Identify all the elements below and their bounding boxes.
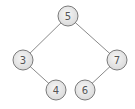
node-label: 6 [82,85,88,96]
nodes: 53746 [13,6,127,100]
tree-node-3: 3 [13,50,33,70]
node-label: 4 [53,85,59,96]
node-label: 7 [114,55,120,66]
binary-tree-diagram: 53746 [0,0,135,109]
tree-node-5: 5 [58,6,78,26]
tree-node-7: 7 [107,50,127,70]
node-label: 3 [20,55,26,66]
tree-node-6: 6 [75,80,95,100]
edges [23,16,117,90]
node-label: 5 [65,11,71,22]
tree-node-4: 4 [46,80,66,100]
